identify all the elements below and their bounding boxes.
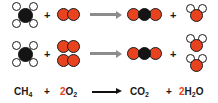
carbon-dioxide-subscript: 2 [145, 91, 149, 98]
molecule-methane [12, 41, 38, 67]
carbon-dioxide-symbol: CO [130, 86, 145, 97]
chemical-equation-diagram: + + + [0, 0, 218, 103]
reaction-arrow [90, 52, 117, 55]
carbon-atom [138, 8, 151, 21]
formula-methane: CH4 [14, 87, 32, 97]
oxygen-atom [190, 9, 203, 22]
plus-sign: + [170, 49, 176, 60]
oxygen-subscript: 2 [73, 91, 77, 98]
plus-sign: + [44, 10, 50, 21]
molecule-dioxygen [57, 54, 80, 67]
molecule-dioxygen [57, 40, 80, 53]
formula-plus-1: + [44, 87, 50, 97]
water-symbol-tail: O [196, 86, 204, 97]
oxygen-atom [67, 8, 80, 21]
carbon-atom [18, 47, 33, 62]
carbon-atom [138, 47, 151, 60]
plus-sign: + [170, 10, 176, 21]
oxygen-atom [190, 39, 203, 52]
molecule-carbon-dioxide [127, 47, 162, 60]
molecule-water [186, 4, 207, 22]
molecule-dioxygen [57, 8, 80, 21]
water-subscript: 2 [192, 91, 196, 98]
oxygen-atom [67, 54, 80, 67]
molecule-water [186, 54, 207, 72]
methane-symbol: CH [14, 86, 28, 97]
molecule-water [186, 34, 207, 52]
oxygen-atom [67, 40, 80, 53]
formula-carbon-dioxide: CO2 [130, 87, 149, 97]
formula-oxygen: 2O2 [60, 87, 77, 97]
water-symbol: H [185, 86, 192, 97]
carbon-atom [18, 8, 33, 23]
formula-reaction-arrow [92, 91, 117, 93]
methane-subscript: 4 [28, 91, 32, 98]
plus-sign: + [44, 49, 50, 60]
formula-plus-2: + [166, 87, 172, 97]
formula-water: 2H2O [179, 87, 203, 97]
oxygen-atom [190, 59, 203, 72]
equation-row-balanced: + + [0, 33, 218, 75]
reaction-arrow [90, 13, 117, 16]
molecule-carbon-dioxide [127, 8, 162, 21]
molecule-methane [12, 2, 38, 28]
equation-row-formula: CH4 + 2O2 CO2 + 2H2O [0, 79, 218, 103]
equation-row-unbalanced: + + [0, 0, 218, 32]
